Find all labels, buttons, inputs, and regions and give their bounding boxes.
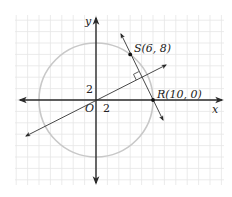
point-S-label: S(6, 8): [134, 42, 171, 55]
y-axis-label: y: [84, 15, 92, 28]
y-tick-label: 2: [86, 83, 93, 96]
coordinate-diagram: y x O 2 2 S(6, 8) R(10, 0): [0, 0, 232, 197]
point-R-label: R(10, 0): [156, 88, 202, 101]
point-S: [128, 53, 132, 57]
x-axis-label: x: [212, 103, 219, 116]
origin-label: O: [85, 102, 94, 115]
point-R: [151, 98, 155, 102]
x-tick-label: 2: [103, 102, 110, 115]
